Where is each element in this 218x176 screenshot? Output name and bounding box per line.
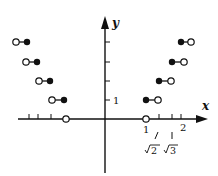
sqrt3-label: 3	[170, 145, 176, 156]
step-function-graph: y x 1 1 2 2 3	[0, 0, 218, 176]
left-steps	[17, 42, 64, 100]
x-axis-label: x	[201, 99, 210, 113]
sqrt2-label: 2	[151, 145, 157, 156]
y-ticks	[105, 42, 110, 100]
left-open-points	[13, 39, 55, 103]
right-closed-points	[143, 39, 184, 103]
left-closed-points	[24, 39, 67, 103]
right-steps	[146, 42, 191, 100]
sqrt2-pointer	[155, 132, 158, 139]
right-open-points	[155, 39, 194, 103]
y-tick-label-1: 1	[113, 95, 119, 106]
y-axis-label: y	[111, 16, 120, 30]
x-tick-label-2: 2	[180, 122, 186, 133]
x-tick-label-1: 1	[143, 124, 149, 135]
x-axis-arrow-icon	[196, 115, 208, 123]
y-axis-arrow-icon	[101, 16, 109, 29]
